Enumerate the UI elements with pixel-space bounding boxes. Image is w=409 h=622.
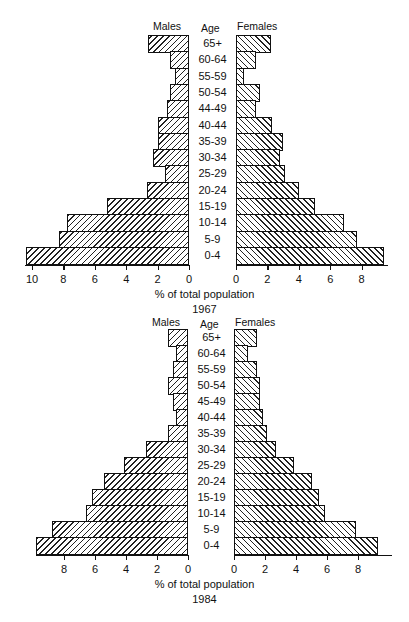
age-label: 35-39	[189, 427, 235, 439]
age-label: 25-29	[189, 459, 235, 471]
male-tick-label: 8	[54, 563, 74, 575]
pyramid-1984: MalesAgeFemales65+60-6455-5950-5445-4940…	[0, 0, 409, 622]
male-bar	[92, 489, 188, 507]
age-label: 30-34	[189, 443, 235, 455]
female-bar	[234, 521, 356, 539]
female-tick	[296, 555, 297, 560]
male-bar	[146, 441, 188, 459]
female-tick-label: 2	[255, 563, 275, 575]
female-bar	[234, 409, 263, 427]
age-label: 10-14	[189, 507, 235, 519]
age-label: 5-9	[189, 523, 235, 535]
male-bar	[176, 345, 188, 363]
male-bar	[168, 425, 188, 443]
females-header: Females	[235, 316, 275, 328]
age-label: 50-54	[189, 379, 235, 391]
male-bar	[86, 505, 188, 523]
male-tick	[157, 555, 158, 560]
female-bar	[234, 441, 276, 459]
male-tick-label: 0	[178, 563, 198, 575]
x-axis-label: % of total population	[0, 578, 409, 590]
male-bar	[176, 409, 188, 427]
female-bar	[234, 361, 257, 379]
male-tick-label: 4	[116, 563, 136, 575]
female-tick	[265, 555, 266, 560]
male-bar	[173, 361, 189, 379]
female-bar	[234, 425, 267, 443]
female-tick-label: 4	[286, 563, 306, 575]
male-bar	[168, 329, 188, 347]
year-label: 1984	[0, 593, 409, 605]
female-bar	[234, 489, 319, 507]
male-bar	[124, 457, 188, 475]
male-tick	[64, 555, 65, 560]
female-tick	[234, 555, 235, 560]
age-label: 60-64	[189, 347, 235, 359]
male-bar	[104, 473, 188, 491]
female-bar	[234, 505, 325, 523]
age-label: 65+	[189, 331, 235, 343]
male-bar	[173, 393, 189, 411]
female-bar	[234, 537, 378, 555]
age-label: 0-4	[189, 539, 235, 551]
male-axis	[36, 555, 188, 556]
female-tick-label: 8	[348, 563, 368, 575]
male-tick	[126, 555, 127, 560]
female-tick	[327, 555, 328, 560]
male-tick	[95, 555, 96, 560]
male-tick	[188, 555, 189, 560]
male-bar	[52, 521, 188, 539]
female-bar	[234, 457, 294, 475]
female-tick-label: 6	[317, 563, 337, 575]
age-label: 40-44	[189, 411, 235, 423]
age-label: 20-24	[189, 475, 235, 487]
age-label: 55-59	[189, 363, 235, 375]
males-header: Males	[152, 316, 180, 328]
female-tick	[358, 555, 359, 560]
male-bar	[168, 377, 188, 395]
female-tick-label: 0	[224, 563, 244, 575]
female-bar	[234, 473, 312, 491]
female-bar	[234, 377, 260, 395]
age-label: 15-19	[189, 491, 235, 503]
male-tick-label: 2	[147, 563, 167, 575]
female-bar	[234, 345, 248, 363]
male-tick-label: 6	[85, 563, 105, 575]
age-header: Age	[200, 318, 219, 330]
male-bar	[36, 537, 188, 555]
female-bar	[234, 329, 257, 347]
female-bar	[234, 393, 260, 411]
female-axis	[234, 555, 392, 556]
age-label: 45-49	[189, 395, 235, 407]
